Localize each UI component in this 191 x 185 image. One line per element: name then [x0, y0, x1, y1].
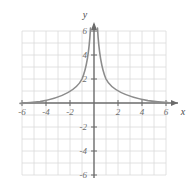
curve-branch-negative	[20, 28, 91, 103]
y-axis-label: y	[82, 9, 88, 20]
x-tick-label-4: 4	[140, 107, 145, 117]
hyperbola-graph: -6 -4 -2 2 4 6 6 4 2 -2 -4 -6 y x	[0, 0, 191, 185]
x-tick-label--2: -2	[66, 107, 74, 117]
x-tick-label-2: 2	[116, 107, 121, 117]
coordinate-plane-svg: -6 -4 -2 2 4 6 6 4 2 -2 -4 -6 y x	[0, 0, 191, 185]
x-axis-arrowhead	[171, 100, 178, 106]
y-tick-label-2: 2	[83, 74, 88, 84]
x-tick-label--4: -4	[42, 107, 50, 117]
x-tick-label--6: -6	[18, 107, 26, 117]
y-tick-label-6: 6	[83, 26, 88, 36]
y-tick-label-4: 4	[83, 50, 88, 60]
y-tick-label--2: -2	[80, 122, 88, 132]
y-tick-label--6: -6	[80, 170, 88, 180]
curve-branch-positive	[98, 28, 169, 103]
x-axis-label: x	[180, 106, 186, 117]
y-tick-label--4: -4	[80, 146, 88, 156]
x-tick-label-6: 6	[164, 107, 169, 117]
y-axis-arrowhead	[91, 22, 97, 30]
